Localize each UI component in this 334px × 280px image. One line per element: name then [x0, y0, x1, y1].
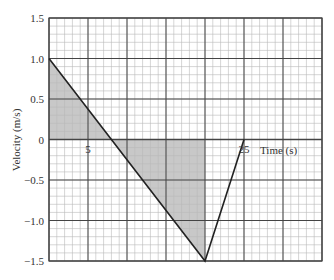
x-axis-label: Time (s): [260, 144, 298, 157]
y-tick-label: 1.5: [30, 12, 44, 24]
y-tick-labels: 1.51.00.50−0.5−1.0−1.5: [24, 12, 44, 267]
y-tick-label: 0: [39, 134, 45, 146]
y-tick-label: −0.5: [24, 174, 44, 186]
y-tick-label: −1.5: [24, 255, 44, 267]
y-axis-label: Velocity (m/s): [10, 108, 23, 171]
velocity-time-chart: 1.51.00.50−0.5−1.0−1.5 525 Velocity (m/s…: [0, 0, 334, 280]
x-tick-label: 25: [239, 143, 251, 155]
x-tick-label: 5: [85, 143, 91, 155]
y-tick-label: 0.5: [30, 93, 44, 105]
y-tick-label: 1.0: [30, 53, 44, 65]
y-tick-label: −1.0: [24, 215, 44, 227]
